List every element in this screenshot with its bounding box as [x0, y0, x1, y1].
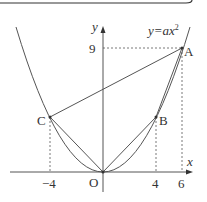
tick-x-6: 6 — [178, 176, 185, 191]
label-B: B — [159, 113, 168, 128]
segment-BA — [156, 48, 182, 117]
tick-x-4: 4 — [152, 176, 159, 191]
guide-lines — [50, 48, 182, 172]
point-C — [49, 116, 52, 119]
segments — [50, 48, 182, 172]
tick-y-9: 9 — [89, 41, 96, 56]
point-O — [102, 171, 105, 174]
label-A: A — [184, 44, 194, 59]
curve-equation-label: y=ax2 — [146, 23, 179, 38]
parabola-diagram: A B C O y x 9 −4 4 6 y=ax2 — [0, 0, 207, 202]
segment-CA — [50, 48, 182, 117]
tick-x-neg4: −4 — [42, 176, 56, 191]
point-B — [155, 116, 158, 119]
segment-OB — [103, 117, 156, 172]
y-axis-label: y — [90, 19, 98, 34]
x-axis-label: x — [186, 154, 193, 169]
segment-CO — [50, 117, 103, 172]
label-C: C — [37, 113, 46, 128]
y-axis-arrow-icon — [101, 26, 106, 33]
frame-border — [0, 0, 192, 3]
x-axis-arrow-icon — [186, 170, 193, 175]
label-O: O — [89, 175, 98, 190]
